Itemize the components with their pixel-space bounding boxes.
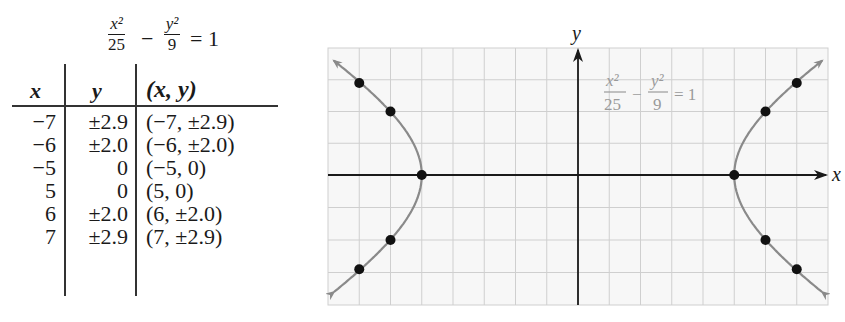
data-point — [761, 235, 771, 245]
data-point — [386, 107, 396, 117]
data-point — [792, 264, 802, 274]
data-point — [729, 170, 739, 180]
label-minus: − — [632, 85, 642, 104]
data-point — [354, 264, 364, 274]
x-axis-label: x — [831, 163, 841, 185]
label-x-denominator: 25 — [604, 95, 621, 114]
label-y-numerator: y² — [649, 71, 665, 90]
data-point — [761, 107, 771, 117]
data-point — [354, 78, 364, 88]
label-equals: = 1 — [674, 85, 696, 104]
data-point — [417, 170, 427, 180]
data-point — [792, 78, 802, 88]
label-x-numerator: x² — [605, 71, 620, 90]
data-point — [386, 235, 396, 245]
y-axis-label: y — [570, 22, 581, 45]
hyperbola-graph: x y x² 25 − y² 9 = 1 — [0, 0, 845, 322]
label-y-denominator: 9 — [653, 95, 662, 114]
